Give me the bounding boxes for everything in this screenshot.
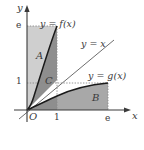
region-c-label: C (45, 76, 53, 86)
region-b-label: B (92, 93, 99, 103)
math-figure: y x O e 1 1 e y = f(x) y = x y = g(x) A … (0, 0, 144, 150)
x-axis-label: x (132, 111, 138, 121)
x-tick-1-label: 1 (54, 113, 60, 122)
x-axis-arrowhead (124, 107, 131, 112)
y-axis-arrowhead (24, 5, 29, 12)
y-axis-label: y (17, 3, 23, 13)
g-curve-label: y = g(x) (88, 71, 126, 81)
region-a-label: A (36, 51, 43, 61)
f-curve-label: y = f(x) (40, 19, 76, 29)
origin-label: O (29, 112, 37, 122)
y-tick-1-label: 1 (16, 77, 22, 86)
x-tick-e-label: e (105, 114, 110, 123)
y-tick-e-label: e (16, 21, 21, 30)
identity-line-label: y = x (81, 39, 106, 49)
